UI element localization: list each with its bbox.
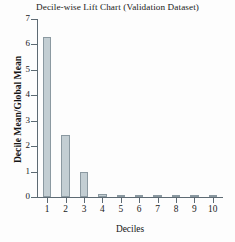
x-tick-mark xyxy=(194,198,195,203)
y-axis-label: Decile Mean/Global Mean xyxy=(12,35,23,185)
bar xyxy=(135,195,143,198)
bar xyxy=(80,172,88,197)
y-tick-mark xyxy=(31,197,37,198)
x-tick-mark xyxy=(158,198,159,203)
x-tick-mark xyxy=(84,198,85,203)
x-tick-mark xyxy=(47,198,48,203)
y-tick-mark xyxy=(31,146,37,147)
bar xyxy=(43,37,51,197)
bar xyxy=(117,195,125,198)
y-tick-label: 5 xyxy=(14,64,30,74)
x-tick-mark xyxy=(102,198,103,203)
bar xyxy=(153,195,161,198)
y-tick-label: 6 xyxy=(14,38,30,48)
x-tick-label: 10 xyxy=(202,204,224,214)
bar xyxy=(172,195,180,198)
y-tick-label: 3 xyxy=(14,115,30,125)
x-axis-line xyxy=(37,197,223,198)
y-tick-label: 0 xyxy=(14,191,30,201)
bar xyxy=(98,194,106,197)
y-tick-label: 2 xyxy=(14,140,30,150)
bar xyxy=(209,195,217,198)
chart-title: Decile-wise Lift Chart (Validation Datas… xyxy=(0,2,235,12)
y-tick-label: 7 xyxy=(14,13,30,23)
y-tick-mark xyxy=(31,19,37,20)
y-tick-label: 4 xyxy=(14,89,30,99)
y-tick-mark xyxy=(31,70,37,71)
x-tick-mark xyxy=(66,198,67,203)
x-tick-mark xyxy=(139,198,140,203)
x-axis-label: Deciles xyxy=(38,224,222,234)
lift-chart-figure: Decile-wise Lift Chart (Validation Datas… xyxy=(0,0,235,242)
y-tick-mark xyxy=(31,121,37,122)
x-tick-mark xyxy=(176,198,177,203)
plot-area xyxy=(38,19,222,197)
bar xyxy=(190,195,198,198)
y-tick-mark xyxy=(31,44,37,45)
y-tick-label: 1 xyxy=(14,166,30,176)
x-tick-mark xyxy=(121,198,122,203)
y-tick-mark xyxy=(31,172,37,173)
x-tick-mark xyxy=(213,198,214,203)
bar xyxy=(61,135,69,197)
y-tick-mark xyxy=(31,95,37,96)
